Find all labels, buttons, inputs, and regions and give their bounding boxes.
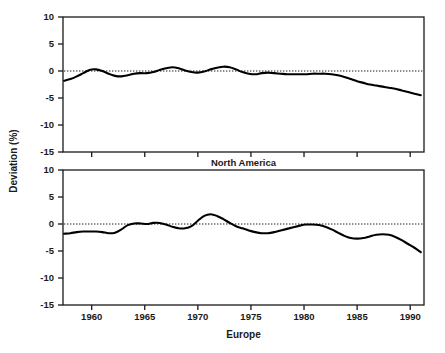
- y-axis-ticks-top: 1050-5-10-15: [40, 11, 63, 157]
- x-tick-label: 1985: [347, 311, 369, 322]
- y-axis-title: Deviation (%): [8, 129, 19, 192]
- panel-north-america: 1050-5-10-15: [40, 11, 424, 157]
- x-tick-label: 1980: [293, 311, 314, 322]
- y-tick-label: -5: [46, 92, 55, 103]
- x-tick-label: 1970: [187, 311, 208, 322]
- y-tick-label: 5: [49, 191, 55, 202]
- x-tick-label: 1960: [81, 311, 102, 322]
- y-axis-ticks-bottom: 1050-5-10-15: [40, 164, 63, 310]
- panel-label-north-america: North America: [211, 157, 277, 168]
- chart-svg: Deviation (%) 1050-5-10-15 North America…: [0, 0, 445, 353]
- x-tick-label: 1975: [240, 311, 262, 322]
- y-tick-label: -10: [40, 272, 54, 283]
- y-tick-label: 5: [49, 38, 55, 49]
- y-tick-label: 0: [49, 218, 54, 229]
- y-tick-label: 10: [43, 164, 54, 175]
- y-tick-label: 0: [49, 65, 54, 76]
- x-axis-ticks-bottom: 1960196519701975198019851990: [81, 305, 421, 322]
- y-tick-label: -5: [46, 245, 55, 256]
- y-tick-label: -15: [40, 146, 54, 157]
- x-axis-title-europe: Europe: [226, 329, 261, 340]
- y-tick-label: 10: [43, 11, 54, 22]
- data-line-europe: [64, 214, 421, 252]
- y-tick-label: -15: [40, 299, 54, 310]
- chart-figure: Deviation (%) 1050-5-10-15 North America…: [0, 0, 445, 353]
- x-tick-label: 1965: [134, 311, 156, 322]
- panel-europe: 1050-5-10-15 196019651970197519801985199…: [40, 164, 424, 322]
- y-tick-label: -10: [40, 119, 54, 130]
- x-tick-label: 1990: [400, 311, 421, 322]
